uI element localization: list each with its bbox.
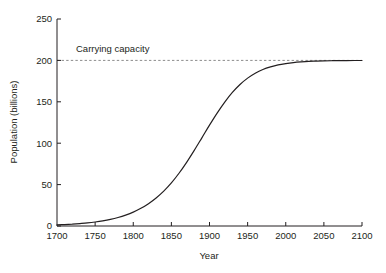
chart-figure: Carrying capacity 050100150200250 170017…	[0, 0, 386, 273]
x-tick-label: 1950	[237, 230, 258, 241]
x-tick-label: 1700	[46, 230, 67, 241]
x-tick-label: 1900	[199, 230, 220, 241]
y-tick-label: 250	[36, 13, 52, 24]
y-tick-label: 200	[36, 55, 52, 66]
x-tick-label: 1750	[85, 230, 106, 241]
x-tick-label: 2000	[275, 230, 296, 241]
y-tick-label: 50	[41, 179, 52, 190]
x-tick-label: 2050	[313, 230, 334, 241]
y-axis-title: Population (billions)	[8, 81, 19, 164]
x-tick-label: 1800	[123, 230, 144, 241]
y-tick-label: 100	[36, 138, 52, 149]
carrying-capacity-label: Carrying capacity	[76, 43, 150, 54]
x-axis-title: Year	[199, 250, 218, 261]
x-tick-label: 2100	[351, 230, 372, 241]
x-axis-tick-labels: 170017501800185019001950200020502100	[46, 230, 372, 241]
logistic-growth-chart: Carrying capacity 050100150200250 170017…	[0, 0, 386, 273]
y-tick-label: 150	[36, 96, 52, 107]
x-tick-label: 1850	[161, 230, 182, 241]
